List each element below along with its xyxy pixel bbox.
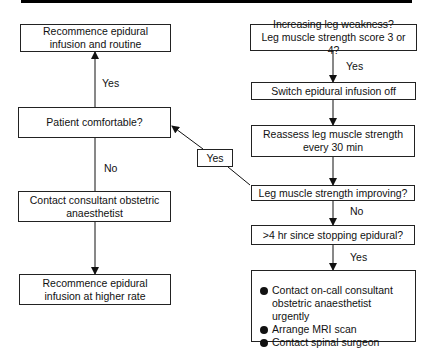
improving-box: Leg muscle strength improving? bbox=[251, 185, 415, 201]
recommence-routine-box: Recommence epidural infusion and routine bbox=[20, 24, 171, 52]
improving-text: Leg muscle strength improving? bbox=[259, 187, 408, 200]
reassess-line1: Reassess leg muscle strength bbox=[263, 128, 403, 141]
switch-off-text: Switch epidural infusion off bbox=[271, 85, 396, 98]
contact-consultant-box: Contact consultant obstetric anaesthetis… bbox=[18, 191, 171, 222]
contact-consultant-text: Contact consultant obstetric anaesthetis… bbox=[23, 194, 166, 220]
action-item: Arrange MRI scan bbox=[260, 323, 409, 336]
action-item: Contact spinal surgeon bbox=[260, 336, 409, 349]
yes-label-right-2: Yes bbox=[350, 251, 367, 263]
action-item: Contact on-call consultant obstetric ana… bbox=[260, 284, 409, 323]
four-hr-text: >4 hr since stopping epidural? bbox=[263, 229, 403, 242]
patient-comfortable-box: Patient comfortable? bbox=[18, 107, 171, 138]
increasing-weakness-line2: Leg muscle strength score 3 or 4? bbox=[255, 31, 412, 57]
recommence-higher-box: Recommence epidural infusion at higher r… bbox=[19, 274, 171, 305]
yes-label-left: Yes bbox=[102, 77, 119, 89]
increasing-weakness-line1: Increasing leg weakness? bbox=[273, 18, 394, 31]
four-hr-box: >4 hr since stopping epidural? bbox=[251, 225, 415, 245]
no-label-left: No bbox=[104, 162, 117, 174]
reassess-line2: every 30 min bbox=[303, 141, 363, 154]
yes-connector-box: Yes bbox=[197, 149, 233, 167]
recommence-routine-text: Recommence epidural infusion and routine bbox=[25, 25, 166, 51]
increasing-weakness-box: Increasing leg weakness? Leg muscle stre… bbox=[250, 24, 417, 51]
no-label-right: No bbox=[350, 205, 363, 217]
patient-comfortable-text: Patient comfortable? bbox=[46, 116, 142, 129]
switch-off-box: Switch epidural infusion off bbox=[251, 82, 416, 100]
reassess-box: Reassess leg muscle strength every 30 mi… bbox=[251, 125, 415, 157]
yes-connector-text: Yes bbox=[206, 152, 223, 165]
yes-label-right-1: Yes bbox=[346, 60, 363, 72]
recommence-higher-text: Recommence epidural infusion at higher r… bbox=[24, 277, 166, 303]
actions-box: Contact on-call consultant obstetric ana… bbox=[251, 270, 416, 342]
